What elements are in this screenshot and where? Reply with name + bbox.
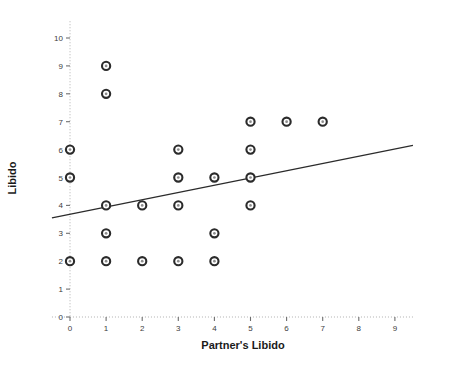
y-tick-label: 9	[59, 62, 64, 71]
data-point-marker	[174, 201, 182, 209]
data-point-marker	[210, 257, 218, 265]
y-tick-label: 4	[59, 201, 64, 210]
data-point-marker	[102, 257, 110, 265]
data-point-marker	[174, 173, 182, 181]
data-point-marker	[283, 118, 291, 126]
y-tick-label: 10	[54, 34, 63, 43]
data-point-marker	[138, 257, 146, 265]
y-tick-label: 8	[59, 90, 64, 99]
x-tick-label: 2	[140, 324, 145, 333]
data-point-marker	[246, 173, 254, 181]
data-point-marker	[102, 62, 110, 70]
data-point-marker	[66, 257, 74, 265]
data-point-marker	[102, 229, 110, 237]
x-tick-label: 5	[248, 324, 253, 333]
y-tick-label: 6	[59, 146, 64, 155]
data-point-marker	[174, 257, 182, 265]
data-point-marker	[210, 173, 218, 181]
y-tick-label: 1	[59, 285, 64, 294]
data-point-marker	[66, 173, 74, 181]
y-tick-label: 5	[59, 174, 64, 183]
x-tick-label: 9	[393, 324, 398, 333]
data-point-marker	[102, 90, 110, 98]
data-point-marker	[174, 146, 182, 154]
x-tick-label: 8	[357, 324, 362, 333]
data-point-marker	[246, 201, 254, 209]
y-tick-label: 3	[59, 229, 64, 238]
data-point-marker	[138, 201, 146, 209]
x-tick-label: 4	[212, 324, 217, 333]
data-point-marker	[102, 201, 110, 209]
y-axis-title: Libido	[6, 161, 18, 194]
data-point-marker	[246, 146, 254, 154]
x-tick-label: 7	[320, 324, 325, 333]
data-point-marker	[210, 229, 218, 237]
x-tick-label: 3	[176, 324, 181, 333]
y-tick-label: 7	[59, 118, 64, 127]
x-tick-label: 0	[68, 324, 73, 333]
x-tick-label: 1	[104, 324, 109, 333]
data-point-marker	[66, 146, 74, 154]
data-point-marker	[246, 118, 254, 126]
scatter-plot-figure: 012345678910 0123456789 Partner's Libido…	[0, 0, 459, 365]
x-tick-label: 6	[284, 324, 289, 333]
plot-canvas: 012345678910 0123456789 Partner's Libido…	[0, 0, 459, 365]
data-point-marker	[319, 118, 327, 126]
x-axis-title: Partner's Libido	[201, 339, 285, 351]
y-tick-label: 2	[59, 257, 64, 266]
